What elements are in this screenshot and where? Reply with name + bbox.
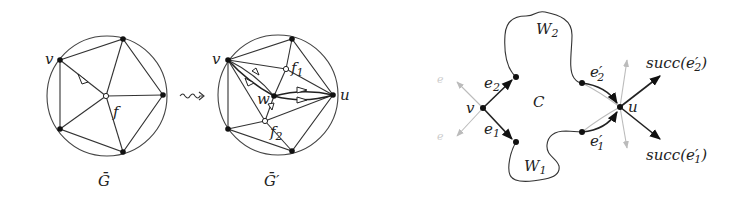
vertex-e2-prime-start <box>579 80 585 86</box>
spoke-edge <box>106 95 163 96</box>
label-e2: e2 <box>484 74 500 94</box>
vertex-u <box>330 92 336 98</box>
label-w2: W2 <box>536 20 558 40</box>
edge-succ-e1-prime <box>620 107 660 139</box>
label-f2: f2 <box>269 123 283 143</box>
label-e1-prime: e′1 <box>590 132 604 153</box>
label-cycle-c: C <box>533 93 545 111</box>
edge-f1-w <box>274 69 286 96</box>
label-w: w <box>257 90 270 108</box>
label-f: f <box>112 103 121 121</box>
vertex-e2-end <box>513 74 519 80</box>
faint-label-top: e <box>437 73 444 86</box>
faint-edge-u-up <box>620 60 627 107</box>
vertex-u <box>617 104 623 110</box>
vertex <box>289 148 295 154</box>
cycle-diagram: e e v u C W2 W1 e2 e1 e′ <box>437 12 707 182</box>
label-v: v <box>45 50 54 68</box>
caption-g-bar-prime: Ḡ′ <box>264 172 280 190</box>
face-vertex-f1 <box>283 66 288 71</box>
hollow-arrow-icon <box>78 74 88 84</box>
figure: v f Ḡ <box>0 0 743 206</box>
label-u: u <box>340 86 350 104</box>
faint-edge <box>582 83 620 107</box>
vertex-v <box>480 105 486 111</box>
vertex-w <box>271 93 277 99</box>
label-f1: f1 <box>290 59 304 79</box>
face-vertex-f2 <box>262 118 267 123</box>
face-vertex-f <box>103 93 108 98</box>
graph-g-bar-prime: v u w f1 f2 Ḡ′ <box>212 35 350 190</box>
label-v: v <box>466 99 475 117</box>
faint-edge-u-down <box>620 107 627 148</box>
label-succ-e2-prime: succ(e′2) <box>646 54 707 74</box>
vertex <box>289 36 295 42</box>
faint-label-bottom: e <box>437 130 444 143</box>
vertex <box>225 126 231 132</box>
edge-f2-bl <box>228 121 265 129</box>
label-succ-e1-prime: succ(e′1) <box>646 146 707 166</box>
squiggle-arrow-icon <box>180 94 203 98</box>
edge-succ-e2-prime <box>620 76 660 107</box>
label-e2-prime: e′2 <box>590 63 604 84</box>
faint-edge <box>582 107 620 132</box>
vertex <box>120 36 126 42</box>
graph-g-bar: v f Ḡ <box>45 36 167 190</box>
vertex-v <box>57 57 63 63</box>
label-w1: W1 <box>524 157 546 177</box>
edge-e1-prime <box>582 112 617 132</box>
vertex-e1-prime-start <box>579 129 585 135</box>
vertex <box>120 149 126 155</box>
spoke-edge <box>60 96 106 129</box>
label-v: v <box>212 50 221 68</box>
hollow-arrow-icon <box>252 68 259 75</box>
vertex-e1-end <box>513 139 519 145</box>
transform-arrow <box>180 92 204 100</box>
caption-g-bar: Ḡ <box>98 172 110 190</box>
hollow-arrow-icon <box>297 97 307 103</box>
label-u: u <box>628 98 638 116</box>
vertex <box>160 92 166 98</box>
spoke-edge <box>106 39 123 96</box>
vertex <box>57 126 63 132</box>
edge-w-u-a <box>274 92 333 96</box>
vertex-v <box>225 57 231 63</box>
